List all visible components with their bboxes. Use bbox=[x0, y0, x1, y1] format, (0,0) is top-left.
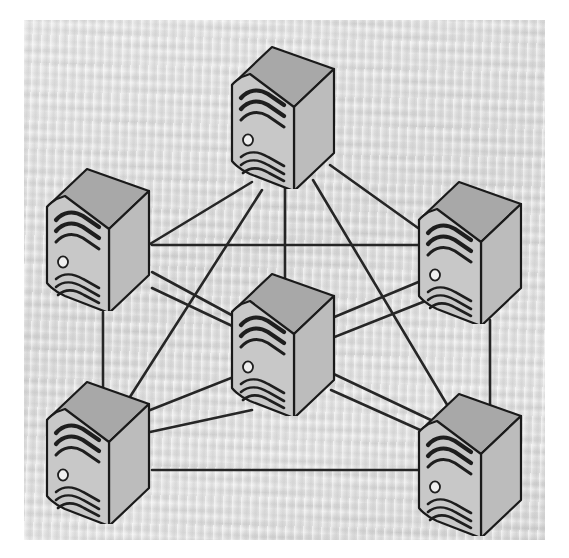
network-link-center-bottom-left[interactable] bbox=[150, 410, 252, 432]
figure-canvas bbox=[0, 0, 569, 558]
nodes-layer bbox=[47, 47, 521, 538]
server-tower-icon-right[interactable] bbox=[419, 182, 521, 326]
network-link-right-center[interactable] bbox=[332, 278, 428, 318]
server-tower-icon-top[interactable] bbox=[232, 47, 334, 191]
server-tower-icon-bottom-left[interactable] bbox=[47, 382, 149, 526]
server-tower-icon-center[interactable] bbox=[232, 274, 334, 418]
network-link-top-left[interactable] bbox=[145, 182, 252, 247]
server-tower-icon-bottom-right[interactable] bbox=[419, 394, 521, 538]
network-topology-diagram bbox=[0, 0, 569, 558]
network-link-top-right[interactable] bbox=[330, 165, 432, 238]
server-tower-icon-left[interactable] bbox=[47, 169, 149, 313]
